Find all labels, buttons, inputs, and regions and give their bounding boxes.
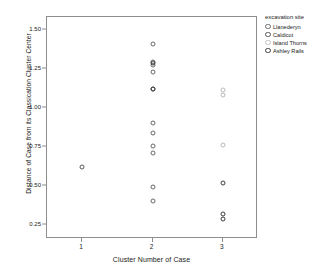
x-axis-title: Cluster Number of Case <box>46 256 257 263</box>
data-point <box>150 69 155 74</box>
legend-item-label: Ashley Rails <box>273 47 304 55</box>
data-point <box>150 121 155 126</box>
x-tick-label: 3 <box>210 243 234 250</box>
data-point <box>220 180 225 185</box>
data-point <box>220 216 225 221</box>
x-tick-label: 1 <box>69 243 93 250</box>
legend-marker-icon <box>265 48 271 54</box>
data-point <box>150 143 155 148</box>
data-point <box>150 151 155 156</box>
legend-item-llanederyn[interactable]: Llanederyn <box>265 23 322 31</box>
data-point <box>150 198 155 203</box>
legend-marker-icon <box>265 24 271 30</box>
y-tick-label: 0.25 <box>0 221 41 227</box>
legend-item-label: Island Thorns <box>273 39 307 47</box>
x-tick-mark <box>152 238 153 242</box>
legend-item-ashley-rails[interactable]: Ashley Rails <box>265 47 322 55</box>
legend-item-caldicot[interactable]: Caldicot <box>265 31 322 39</box>
legend-item-island-thorns[interactable]: Island Thorns <box>265 39 322 47</box>
data-point <box>220 143 225 148</box>
legend-item-label: Caldicot <box>273 31 293 39</box>
legend-marker-icon <box>265 40 271 46</box>
x-tick-mark <box>81 238 82 242</box>
data-point <box>150 130 155 135</box>
x-tick-mark <box>222 238 223 242</box>
data-point <box>220 87 225 92</box>
y-tick-label: 0.75 <box>0 143 41 149</box>
data-point <box>150 86 155 91</box>
x-tick-label: 2 <box>140 243 164 250</box>
data-point <box>150 41 155 46</box>
legend: excavation site LlanederynCaldicotIsland… <box>265 14 322 55</box>
scatter-chart: Distance of Case from its Classication C… <box>0 0 322 270</box>
data-point <box>150 61 155 66</box>
data-point <box>150 185 155 190</box>
legend-items: LlanederynCaldicotIsland ThornsAshley Ra… <box>265 23 322 55</box>
plot-area <box>46 16 257 238</box>
legend-item-label: Llanederyn <box>273 23 301 31</box>
data-point <box>80 165 85 170</box>
data-point <box>220 93 225 98</box>
y-tick-label: 1.25 <box>0 65 41 71</box>
y-tick-label: 1.00 <box>0 104 41 110</box>
legend-title: excavation site <box>265 14 322 20</box>
y-tick-label: 0.50 <box>0 182 41 188</box>
legend-marker-icon <box>265 32 271 38</box>
y-tick-label: 1.50 <box>0 26 41 32</box>
